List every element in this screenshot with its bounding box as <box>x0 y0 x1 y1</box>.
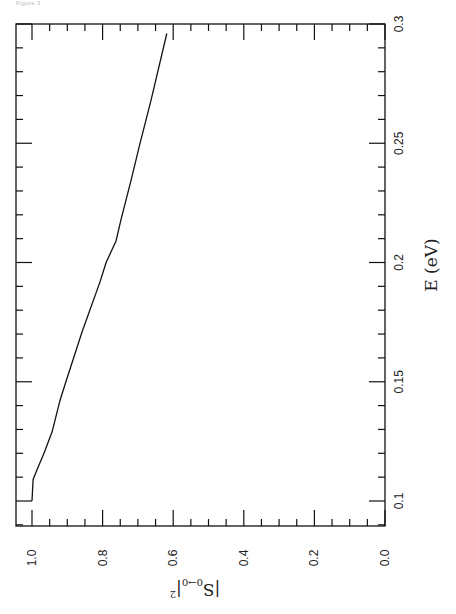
y-tick-label: 0.6 <box>166 549 180 566</box>
data-series-line <box>32 34 167 502</box>
energy-tick-labels: 0.10.150.20.250.3 <box>392 15 406 509</box>
y-tick-label: 0.0 <box>378 549 392 566</box>
y-tick-label: 0.2 <box>307 549 321 566</box>
y-tick-label: 0.4 <box>237 549 251 566</box>
x-tick-label: 0.15 <box>392 370 406 394</box>
x-tick-label: 0.1 <box>392 492 406 509</box>
y-axis-label: |S0→0|2 <box>170 577 221 600</box>
x-tick-label: 0.2 <box>392 254 406 271</box>
x-axis-label: E (eV) <box>421 238 441 291</box>
x-tick-label: 0.25 <box>392 131 406 155</box>
y-label-main: |S <box>203 580 220 600</box>
y-tick-label: 0.8 <box>96 549 110 566</box>
axis-ticks <box>16 24 385 526</box>
y-label-subscript: 0→0 <box>182 577 203 588</box>
svg-text:|S0→0|2: |S0→0|2 <box>170 577 221 600</box>
line-chart: 0.10.150.20.250.3 0.00.20.40.60.81.0 E (… <box>0 0 456 614</box>
y-label-superscript: 2 <box>170 589 176 600</box>
x-tick-label: 0.3 <box>392 15 406 32</box>
value-tick-labels: 0.00.20.40.60.81.0 <box>25 549 392 566</box>
plot-frame <box>16 24 385 526</box>
y-tick-label: 1.0 <box>25 549 39 566</box>
